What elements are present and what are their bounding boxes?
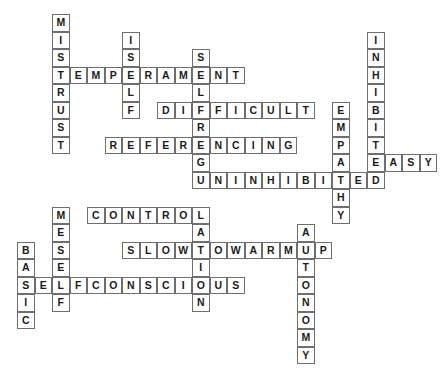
crossword-cell[interactable]: A bbox=[332, 154, 350, 172]
crossword-cell[interactable]: P bbox=[105, 67, 123, 85]
crossword-cell[interactable]: C bbox=[245, 102, 263, 120]
crossword-cell[interactable]: N bbox=[210, 67, 228, 85]
crossword-cell[interactable]: S bbox=[192, 49, 210, 67]
crossword-cell[interactable]: U bbox=[297, 242, 315, 260]
crossword-cell[interactable]: E bbox=[192, 67, 210, 85]
crossword-cell[interactable]: F bbox=[70, 277, 88, 295]
crossword-cell[interactable]: U bbox=[210, 277, 228, 295]
crossword-cell[interactable]: I bbox=[227, 102, 245, 120]
crossword-cell[interactable]: I bbox=[175, 277, 193, 295]
crossword-cell[interactable]: I bbox=[52, 32, 70, 50]
crossword-cell[interactable]: I bbox=[367, 84, 385, 102]
crossword-cell[interactable]: S bbox=[122, 242, 140, 260]
crossword-cell[interactable]: N bbox=[192, 294, 210, 312]
crossword-cell[interactable]: O bbox=[105, 277, 123, 295]
crossword-cell[interactable]: R bbox=[175, 137, 193, 155]
crossword-cell[interactable]: L bbox=[280, 102, 298, 120]
crossword-cell[interactable]: T bbox=[332, 172, 350, 190]
crossword-cell[interactable]: H bbox=[332, 189, 350, 207]
crossword-cell[interactable]: N bbox=[122, 277, 140, 295]
crossword-cell[interactable]: T bbox=[52, 137, 70, 155]
crossword-cell[interactable]: F bbox=[122, 102, 140, 120]
crossword-cell[interactable]: W bbox=[227, 242, 245, 260]
crossword-cell[interactable]: L bbox=[192, 207, 210, 225]
crossword-cell[interactable]: L bbox=[140, 242, 158, 260]
crossword-cell[interactable]: N bbox=[245, 172, 263, 190]
crossword-cell[interactable]: I bbox=[367, 32, 385, 50]
crossword-cell[interactable]: T bbox=[297, 259, 315, 277]
crossword-cell[interactable]: M bbox=[175, 67, 193, 85]
crossword-cell[interactable]: I bbox=[315, 172, 333, 190]
crossword-cell[interactable]: T bbox=[297, 102, 315, 120]
crossword-cell[interactable]: A bbox=[385, 154, 403, 172]
crossword-cell[interactable]: N bbox=[122, 207, 140, 225]
crossword-cell[interactable]: U bbox=[192, 172, 210, 190]
crossword-cell[interactable]: C bbox=[87, 207, 105, 225]
crossword-cell[interactable]: Y bbox=[420, 154, 438, 172]
crossword-cell[interactable]: I bbox=[175, 102, 193, 120]
crossword-cell[interactable]: I bbox=[122, 32, 140, 50]
crossword-cell[interactable]: H bbox=[262, 172, 280, 190]
crossword-cell[interactable]: I bbox=[17, 294, 35, 312]
crossword-cell[interactable]: E bbox=[332, 102, 350, 120]
crossword-cell[interactable]: C bbox=[87, 277, 105, 295]
crossword-cell[interactable]: M bbox=[297, 329, 315, 347]
crossword-cell[interactable]: S bbox=[52, 119, 70, 137]
crossword-cell[interactable]: O bbox=[297, 277, 315, 295]
crossword-cell[interactable]: U bbox=[52, 102, 70, 120]
crossword-cell[interactable]: D bbox=[157, 102, 175, 120]
crossword-cell[interactable]: I bbox=[192, 259, 210, 277]
crossword-cell[interactable]: E bbox=[122, 137, 140, 155]
crossword-cell[interactable]: A bbox=[192, 224, 210, 242]
crossword-cell[interactable]: S bbox=[227, 277, 245, 295]
crossword-cell[interactable]: U bbox=[262, 102, 280, 120]
crossword-cell[interactable]: F bbox=[52, 294, 70, 312]
crossword-cell[interactable]: O bbox=[105, 207, 123, 225]
crossword-cell[interactable]: T bbox=[52, 67, 70, 85]
crossword-cell[interactable]: O bbox=[192, 277, 210, 295]
crossword-cell[interactable]: Y bbox=[332, 207, 350, 225]
crossword-cell[interactable]: R bbox=[192, 119, 210, 137]
crossword-cell[interactable]: A bbox=[245, 242, 263, 260]
crossword-cell[interactable]: B bbox=[367, 102, 385, 120]
crossword-cell[interactable]: E bbox=[52, 224, 70, 242]
crossword-cell[interactable]: M bbox=[280, 242, 298, 260]
crossword-cell[interactable]: T bbox=[367, 137, 385, 155]
crossword-cell[interactable]: E bbox=[52, 259, 70, 277]
crossword-cell[interactable]: N bbox=[367, 49, 385, 67]
crossword-cell[interactable]: R bbox=[157, 207, 175, 225]
crossword-cell[interactable]: D bbox=[367, 172, 385, 190]
crossword-cell[interactable]: R bbox=[52, 84, 70, 102]
crossword-cell[interactable]: G bbox=[280, 137, 298, 155]
crossword-cell[interactable]: L bbox=[122, 84, 140, 102]
crossword-cell[interactable]: T bbox=[140, 207, 158, 225]
crossword-cell[interactable]: A bbox=[297, 224, 315, 242]
crossword-cell[interactable]: C bbox=[17, 312, 35, 330]
crossword-cell[interactable]: S bbox=[402, 154, 420, 172]
crossword-cell[interactable]: M bbox=[87, 67, 105, 85]
crossword-cell[interactable]: O bbox=[175, 207, 193, 225]
crossword-cell[interactable]: G bbox=[192, 154, 210, 172]
crossword-cell[interactable]: W bbox=[175, 242, 193, 260]
crossword-cell[interactable]: S bbox=[17, 277, 35, 295]
crossword-cell[interactable]: E bbox=[122, 67, 140, 85]
crossword-cell[interactable]: C bbox=[157, 277, 175, 295]
crossword-cell[interactable]: I bbox=[367, 119, 385, 137]
crossword-cell[interactable]: E bbox=[367, 154, 385, 172]
crossword-cell[interactable]: R bbox=[262, 242, 280, 260]
crossword-cell[interactable]: F bbox=[140, 137, 158, 155]
crossword-cell[interactable]: N bbox=[210, 172, 228, 190]
crossword-cell[interactable]: S bbox=[52, 242, 70, 260]
crossword-cell[interactable]: R bbox=[140, 67, 158, 85]
crossword-cell[interactable]: E bbox=[350, 172, 368, 190]
crossword-cell[interactable]: N bbox=[262, 137, 280, 155]
crossword-cell[interactable]: Y bbox=[297, 347, 315, 365]
crossword-cell[interactable]: T bbox=[192, 242, 210, 260]
crossword-cell[interactable]: C bbox=[227, 137, 245, 155]
crossword-cell[interactable]: P bbox=[315, 242, 333, 260]
crossword-cell[interactable]: I bbox=[227, 172, 245, 190]
crossword-cell[interactable]: S bbox=[52, 49, 70, 67]
crossword-cell[interactable]: E bbox=[70, 67, 88, 85]
crossword-cell[interactable]: L bbox=[52, 277, 70, 295]
crossword-cell[interactable]: N bbox=[210, 137, 228, 155]
